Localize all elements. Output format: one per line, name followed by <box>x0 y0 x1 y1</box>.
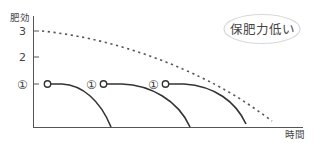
tick-label-1: ① <box>17 78 28 92</box>
start-point-1-icon <box>44 81 50 87</box>
tick-label-2: 2 <box>19 51 26 64</box>
curve-label-2: ① <box>86 78 97 92</box>
annotation-text: 保肥力低い <box>230 22 295 37</box>
fertilizer-curve-1 <box>51 84 111 127</box>
fertilizer-effect-chart: 肥効 3 2 ① 時間 ① ① 保肥力低い <box>0 0 316 143</box>
x-axis-label: 時間 <box>285 129 305 140</box>
start-point-3-icon <box>162 81 168 87</box>
dashed-max-effect-line <box>42 31 272 121</box>
start-point-2-icon <box>100 81 106 87</box>
y-axis-label: 肥効 <box>10 12 30 23</box>
tick-label-3: 3 <box>19 25 26 38</box>
curve-label-3: ① <box>148 78 159 92</box>
fertilizer-curve-3 <box>169 84 246 124</box>
